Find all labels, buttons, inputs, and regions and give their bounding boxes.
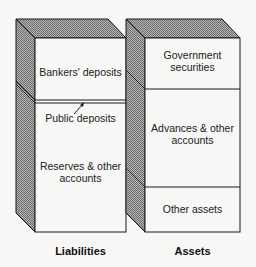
reserves-label: Reserves & other accounts xyxy=(38,160,123,184)
government-securities-label: Government securities xyxy=(152,49,233,73)
liabilities-title: Liabilities xyxy=(35,245,126,257)
advances-label: Advances & other accounts xyxy=(148,122,237,146)
other-assets-label: Other assets xyxy=(145,203,240,215)
bankers-deposits-label: Bankers' deposits xyxy=(35,66,126,78)
public-deposits-label: Public deposits xyxy=(35,112,126,124)
assets-title: Assets xyxy=(145,245,240,257)
liabilities-block xyxy=(16,19,126,232)
